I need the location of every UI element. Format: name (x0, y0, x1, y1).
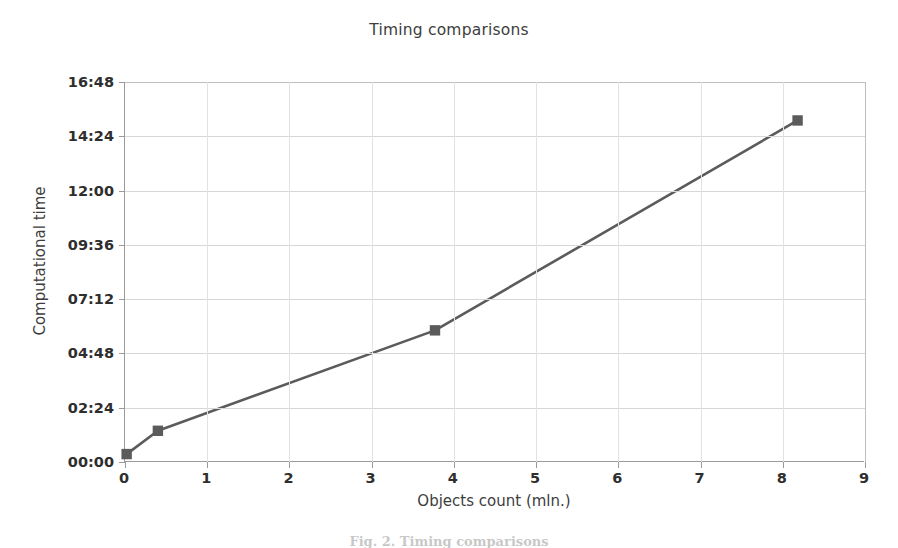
gridline-horizontal (125, 408, 865, 409)
gridline-vertical (783, 82, 784, 462)
x-axis-tick-label: 0 (104, 470, 144, 486)
y-axis-tick-label: 12:00 (44, 183, 114, 199)
x-axis-tick (701, 462, 702, 468)
x-axis-tick-label: 5 (515, 470, 555, 486)
x-axis-title: Objects count (mln.) (124, 492, 864, 510)
y-axis-tick-label: 04:48 (44, 345, 114, 361)
x-axis-tick (783, 462, 784, 468)
x-axis-tick (865, 462, 866, 468)
data-point-marker (153, 426, 163, 436)
plot-area (124, 82, 864, 462)
gridline-vertical (536, 82, 537, 462)
gridline-horizontal (125, 191, 865, 192)
gridline-horizontal (125, 353, 865, 354)
y-axis-tick (119, 408, 125, 409)
x-axis-tick-label: 4 (433, 470, 473, 486)
x-axis-tick-label: 8 (762, 470, 802, 486)
y-axis-tick (119, 299, 125, 300)
gridline-vertical (618, 82, 619, 462)
data-point-marker (792, 115, 802, 125)
series-line (127, 120, 798, 454)
gridline-vertical (454, 82, 455, 462)
x-axis-tick (207, 462, 208, 468)
y-axis-tick-labels: 00:0002:2404:4807:1209:3612:0014:2416:48 (38, 82, 114, 462)
x-axis-tick-label: 6 (597, 470, 637, 486)
data-point-marker (430, 325, 440, 335)
x-axis-tick (454, 462, 455, 468)
y-axis-tick-label: 14:24 (44, 128, 114, 144)
gridline-vertical (701, 82, 702, 462)
x-axis-tick (536, 462, 537, 468)
chart-title: Timing comparisons (0, 21, 898, 39)
y-axis-tick (119, 136, 125, 137)
gridline-vertical (207, 82, 208, 462)
y-axis-tick-label: 02:24 (44, 400, 114, 416)
y-axis-tick (119, 245, 125, 246)
y-axis-tick-label: 00:00 (44, 454, 114, 470)
x-axis-tick-label: 1 (186, 470, 226, 486)
y-axis-tick-label: 16:48 (44, 74, 114, 90)
x-axis-tick-label: 7 (680, 470, 720, 486)
gridline-horizontal (125, 82, 865, 83)
y-axis-tick (119, 353, 125, 354)
figure-container: Timing comparisons Computational time 00… (0, 0, 898, 548)
x-axis-tick-label: 9 (844, 470, 884, 486)
gridline-vertical (865, 82, 866, 462)
series-line-chart (125, 82, 865, 462)
gridline-horizontal (125, 136, 865, 137)
gridline-horizontal (125, 245, 865, 246)
data-point-marker (121, 449, 131, 459)
x-axis-tick-labels: 0123456789 (124, 470, 864, 492)
gridline-horizontal (125, 299, 865, 300)
x-axis-tick-label: 3 (351, 470, 391, 486)
x-axis-tick (125, 462, 126, 468)
x-axis-tick (618, 462, 619, 468)
x-axis-tick (289, 462, 290, 468)
y-axis-tick (119, 82, 125, 83)
y-axis-tick-label: 07:12 (44, 291, 114, 307)
x-axis-tick (372, 462, 373, 468)
y-axis-tick (119, 191, 125, 192)
figure-caption: Fig. 2. Timing comparisons (0, 534, 898, 548)
gridline-vertical (289, 82, 290, 462)
y-axis-tick-label: 09:36 (44, 237, 114, 253)
gridline-vertical (372, 82, 373, 462)
x-axis-tick-label: 2 (268, 470, 308, 486)
